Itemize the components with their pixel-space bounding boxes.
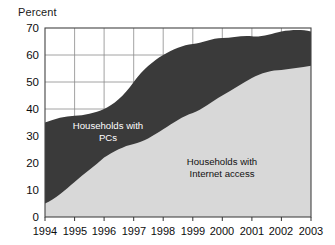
x-axis-tick-1999: 1999 bbox=[179, 226, 207, 237]
x-axis-tick-1995: 1995 bbox=[61, 226, 89, 237]
x-axis-tick-2000: 2000 bbox=[208, 226, 236, 237]
pcs-area-label-line2: PCs bbox=[62, 132, 154, 144]
x-axis-tick-2003: 2003 bbox=[297, 226, 325, 237]
x-axis-tick-1996: 1996 bbox=[90, 226, 118, 237]
pcs-area-label-line1: Households with bbox=[62, 120, 154, 132]
internet-area-label-line2: Internet access bbox=[172, 168, 272, 180]
x-axis-tick-1997: 1997 bbox=[120, 226, 148, 237]
internet-area-label-line1: Households with bbox=[172, 156, 272, 168]
chart-canvas bbox=[0, 0, 335, 245]
x-axis-ticks-marks bbox=[45, 217, 311, 221]
x-axis-tick-1994: 1994 bbox=[31, 226, 59, 237]
x-axis-tick-2001: 2001 bbox=[238, 226, 266, 237]
x-axis-tick-2002: 2002 bbox=[267, 226, 295, 237]
pcs-area-label: Households with PCs bbox=[62, 120, 154, 145]
area-chart: Percent 70 60 50 40 30 20 10 0 bbox=[0, 0, 335, 245]
internet-area-label: Households with Internet access bbox=[172, 156, 272, 181]
x-axis-tick-1998: 1998 bbox=[149, 226, 177, 237]
